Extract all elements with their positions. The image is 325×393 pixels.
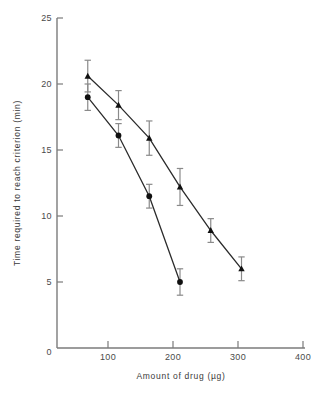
- series-triangle-series: [85, 60, 245, 280]
- y-tick-label-20: 20: [41, 79, 52, 89]
- y-axis-title: Time required to reach criterion (min): [12, 100, 22, 266]
- x-tick-label-200: 200: [165, 352, 181, 362]
- y-tick-label-25: 25: [41, 13, 52, 23]
- y-tick-label-10: 10: [41, 211, 52, 221]
- y-axis-ticks: [57, 18, 63, 282]
- data-point-circle: [85, 94, 91, 100]
- data-series-layer: [85, 60, 245, 295]
- line-chart: 25 20 15 10 5 0 100 200 300 400 Amount o…: [0, 0, 325, 393]
- x-tick-label-300: 300: [230, 352, 246, 362]
- data-point-circle: [177, 279, 183, 285]
- series-circle-series: [85, 84, 184, 295]
- data-point-triangle: [85, 73, 91, 79]
- x-tick-label-400: 400: [295, 352, 311, 362]
- chart-figure: 25 20 15 10 5 0 100 200 300 400 Amount o…: [0, 0, 325, 393]
- y-tick-label-15: 15: [41, 145, 52, 155]
- x-axis-title: Amount of drug (µg): [136, 371, 225, 381]
- y-tick-label-5: 5: [47, 277, 52, 287]
- data-point-circle: [146, 193, 152, 199]
- x-tick-label-100: 100: [100, 352, 116, 362]
- data-point-circle: [116, 133, 122, 139]
- x-axis-ticks: [108, 341, 303, 348]
- series-path: [88, 97, 180, 282]
- y-tick-label-0: 0: [47, 347, 52, 357]
